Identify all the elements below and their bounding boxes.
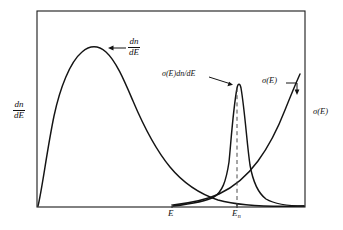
x-tick-label-E: E bbox=[168, 209, 174, 218]
x-tick-label-E-text: E bbox=[168, 208, 174, 218]
annotation-sigma: σ(E) bbox=[262, 76, 277, 85]
y-axis-label-right: σ(E) bbox=[313, 107, 328, 116]
y-axis-label-left-numerator: dn bbox=[13, 100, 25, 109]
annotation-dndE-denominator: dE bbox=[128, 48, 140, 57]
y-axis-label-left: dn dE bbox=[13, 100, 25, 120]
figure-container: dn dE dn dE σ(E)dn/dE σ(E) σ(E) E En bbox=[0, 0, 343, 230]
x-tick-label-En-subscript: n bbox=[238, 213, 241, 219]
y-axis-label-left-denominator: dE bbox=[13, 111, 25, 120]
annotation-dndE-numerator: dn bbox=[128, 37, 140, 46]
x-tick-label-En-text: E bbox=[232, 208, 238, 218]
x-tick-label-En: En bbox=[232, 209, 241, 219]
plot-canvas bbox=[0, 0, 343, 230]
annotation-dndE: dn dE bbox=[128, 37, 140, 57]
plot-frame bbox=[37, 11, 305, 207]
annotation-product: σ(E)dn/dE bbox=[162, 70, 195, 78]
